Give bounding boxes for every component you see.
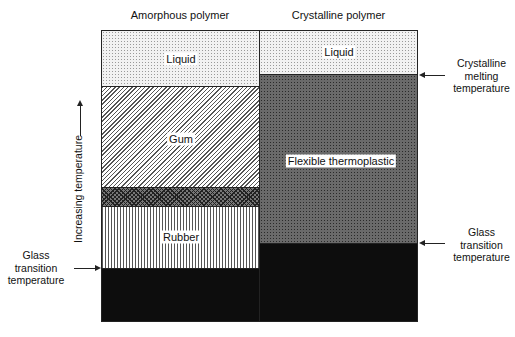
right-glass-arrow-line [425, 243, 445, 244]
rubber-label: Rubber [161, 231, 201, 244]
left-glass-arrow-line [74, 268, 96, 269]
crystalline-liquid-region: Liquid [259, 30, 418, 75]
crystalline-glass-region [259, 243, 418, 322]
flexible-thermoplastic-label: Flexible thermoplastic [286, 155, 396, 168]
left-arrow-icon [419, 72, 425, 78]
melting-arrow-line [425, 75, 445, 76]
gum-region: Gum [101, 86, 260, 188]
up-arrow-icon [77, 100, 83, 106]
left-glass-transition-annotation: Glass transition temperature [0, 249, 72, 287]
temperature-axis-arrow-line [80, 104, 81, 136]
right-glass-transition-annotation: Glass transition temperature [448, 226, 515, 264]
rubber-region: Rubber [101, 206, 260, 269]
amorphous-liquid-label: Liquid [164, 53, 197, 66]
left-arrow-icon [419, 240, 425, 246]
flexible-thermoplastic-region: Flexible thermoplastic [259, 74, 418, 244]
gum-label: Gum [167, 133, 195, 146]
amorphous-glass-region [101, 268, 260, 322]
amorphous-column-title: Amorphous polymer [101, 9, 259, 21]
right-arrow-icon [95, 265, 101, 271]
crystalline-liquid-label: Liquid [322, 46, 355, 59]
crystalline-column-title: Crystalline polymer [259, 9, 418, 21]
temperature-axis-label: Increasing temperature [72, 103, 84, 243]
amorphous-liquid-region: Liquid [101, 30, 260, 87]
leathery-transition-band [101, 187, 260, 207]
crystalline-melting-annotation: Crystalline melting temperature [448, 57, 515, 95]
